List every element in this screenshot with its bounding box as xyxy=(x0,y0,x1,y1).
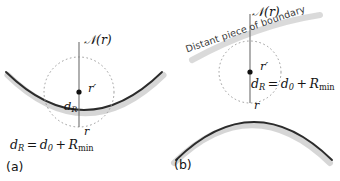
panel-a-caption: (a) xyxy=(6,161,23,174)
eq-a-equals: = xyxy=(27,137,37,152)
eq-b-lhs-sub: R xyxy=(259,82,265,92)
point-r-prime-a xyxy=(76,89,81,94)
eq-b-t2-sub: min xyxy=(319,82,335,92)
eq-a-t1-sub: 0 xyxy=(48,143,53,153)
r-prime-label-a: r′ xyxy=(88,83,96,95)
equation-a: dR = d0 + Rmin xyxy=(10,139,94,152)
eq-b-t2: R xyxy=(309,76,318,91)
panel-b-caption: (b) xyxy=(174,159,192,172)
eq-a-t2: R xyxy=(68,137,77,152)
r-label-a: r xyxy=(84,126,89,137)
r-prime-label-b: r′ xyxy=(260,61,268,73)
eq-a-plus: + xyxy=(55,137,65,152)
eq-a-t2-sub: min xyxy=(78,143,94,153)
point-r-prime-b xyxy=(247,69,252,74)
panel-a-graphics xyxy=(0,0,168,181)
boundary-curve-concave xyxy=(6,72,162,110)
normal-label-a: 𝒩(r) xyxy=(84,34,112,47)
panel-a: 𝒩(r) r′ dR r dR = d0 + Rmin (a) xyxy=(0,0,168,181)
eq-b-plus: + xyxy=(296,76,306,91)
r-label-b: r xyxy=(254,100,259,111)
figure-canvas: 𝒩(r) r′ dR r dR = d0 + Rmin (a) 𝒩(r) Dis… xyxy=(0,0,340,181)
panel-b: 𝒩(r) Distant piece of boundary r′ dR = d… xyxy=(168,0,340,181)
eq-a-lhs: d xyxy=(10,137,18,152)
boundary-halo-convex xyxy=(174,125,330,163)
eq-b-equals: = xyxy=(268,76,278,91)
d-r-subscript: R xyxy=(71,105,77,114)
eq-b-t1: d xyxy=(281,76,289,91)
boundary-halo-concave xyxy=(8,75,164,113)
d-r-label-a: dR xyxy=(64,101,77,113)
eq-a-t1: d xyxy=(40,137,48,152)
eq-a-lhs-sub: R xyxy=(18,143,24,153)
equation-b: dR = d0 + Rmin xyxy=(251,78,335,91)
eq-b-lhs: d xyxy=(251,76,259,91)
eq-b-t1-sub: 0 xyxy=(289,82,294,92)
